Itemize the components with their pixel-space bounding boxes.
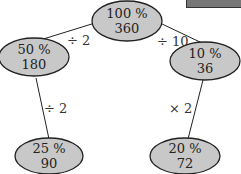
node-root-value: 360 xyxy=(115,21,140,36)
node-right-child-percent: 20 % xyxy=(168,141,201,156)
edge-label-left-leftchild: ÷ 2 xyxy=(44,101,67,116)
node-left: 50 % 180 xyxy=(0,39,69,75)
node-left-child-value: 90 xyxy=(41,156,58,171)
percentage-tree-diagram: 100 % 360 50 % 180 10 % 36 25 % 90 20 % … xyxy=(0,0,241,174)
node-left-child-percent: 25 % xyxy=(32,141,65,156)
node-right-value: 36 xyxy=(197,61,214,76)
edge-label-right-rightchild: × 2 xyxy=(169,101,192,116)
node-right-percent: 10 % xyxy=(188,46,221,61)
edge-label-root-left: ÷ 2 xyxy=(67,33,90,48)
node-left-percent: 50 % xyxy=(17,42,50,57)
node-root-percent: 100 % xyxy=(106,6,147,21)
node-left-value: 180 xyxy=(22,57,47,72)
node-root: 100 % 360 xyxy=(92,3,162,39)
edge-label-root-right: ÷ 10 xyxy=(157,34,189,49)
node-right-child: 20 % 72 xyxy=(150,138,220,174)
node-right-child-value: 72 xyxy=(177,156,194,171)
node-left-child: 25 % 90 xyxy=(15,138,83,174)
